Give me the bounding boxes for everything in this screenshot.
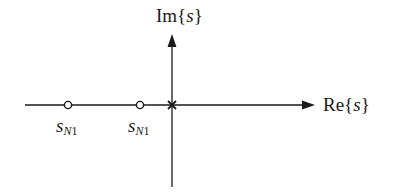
imag-label-var: s: [186, 5, 193, 26]
real-axis-arrow-icon: [302, 101, 315, 110]
imag-label-suffix: }: [194, 5, 203, 26]
imag-label-prefix: Im{: [156, 5, 186, 26]
real-label-var: s: [353, 94, 360, 115]
zero-label: sN1: [128, 115, 149, 139]
zero-marker-icon: [64, 101, 71, 108]
real-label-suffix: }: [361, 94, 370, 115]
zero-marker-icon: [136, 101, 143, 108]
imag-axis-label: Im{s}: [156, 5, 203, 27]
zero-label-sub-num: 1: [71, 124, 77, 138]
zero-label-sub-num: 1: [143, 124, 149, 138]
zero-label: sN1: [56, 115, 77, 139]
real-label-prefix: Re{: [323, 94, 353, 115]
imag-axis-arrow-icon: [168, 34, 177, 47]
real-axis-label: Re{s}: [323, 94, 370, 116]
